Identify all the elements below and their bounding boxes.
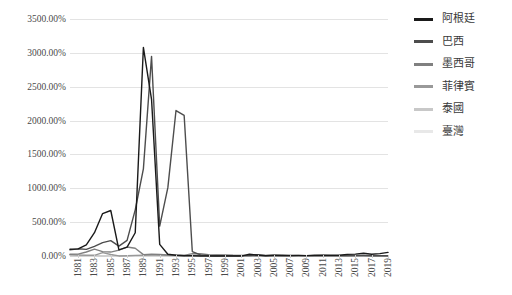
plot-area: [70, 19, 388, 256]
series-line: [70, 47, 388, 256]
series-lines: [70, 19, 388, 256]
x-axis-tick-label: 2011: [318, 258, 328, 277]
x-axis-tick-label: 2005: [269, 258, 279, 277]
legend-item[interactable]: 菲律賓: [414, 76, 510, 99]
x-axis-tick-label: 1985: [106, 258, 116, 277]
x-axis-tick-label: 2015: [350, 258, 360, 277]
x-axis-tick-label: 2017: [367, 258, 377, 277]
y-axis-tick-label: 0.00%: [0, 251, 66, 261]
x-axis-tick-label: 1995: [187, 258, 197, 277]
y-axis-tick-label: 2000.00%: [0, 116, 66, 126]
legend-item-label: 巴西: [442, 36, 464, 48]
x-axis-tick-label: 2009: [301, 258, 311, 277]
x-axis-tick-label: 1989: [138, 258, 148, 277]
legend-item-label: 菲律賓: [442, 81, 475, 93]
x-axis: 1981198319851987198919911993199519971999…: [70, 258, 388, 295]
x-axis-tick-label: 1999: [220, 258, 230, 277]
y-axis-tick-label: 2500.00%: [0, 82, 66, 92]
legend-color-swatch: [414, 108, 433, 111]
x-axis-tick-label: 1981: [73, 258, 83, 277]
legend-item[interactable]: 巴西: [414, 31, 510, 54]
x-axis-tick-label: 1983: [89, 258, 99, 277]
legend-color-swatch: [414, 130, 433, 133]
y-axis-tick-label: 500.00%: [0, 217, 66, 227]
legend-item-label: 阿根廷: [442, 13, 475, 25]
legend-item-label: 臺灣: [442, 126, 464, 138]
legend-color-swatch: [414, 63, 433, 66]
x-axis-tick-label: 2007: [285, 258, 295, 277]
x-axis-tick-label: 1997: [204, 258, 214, 277]
x-axis-tick-label: 2003: [253, 258, 263, 277]
legend-color-swatch: [414, 18, 433, 21]
legend-item[interactable]: 阿根廷: [414, 8, 510, 31]
legend-item-label: 墨西哥: [442, 58, 475, 70]
y-axis: 0.00%500.00%1000.00%1500.00%2000.00%2500…: [0, 0, 66, 256]
y-axis-tick-label: 1000.00%: [0, 183, 66, 193]
x-axis-tick-label: 1991: [155, 258, 165, 277]
legend-item[interactable]: 墨西哥: [414, 53, 510, 76]
legend-color-swatch: [414, 85, 433, 88]
y-axis-tick-label: 3500.00%: [0, 14, 66, 24]
x-axis-tick-label: 2001: [236, 258, 246, 277]
x-axis-tick-label: 1993: [171, 258, 181, 277]
legend-color-swatch: [414, 40, 433, 43]
y-axis-tick-label: 3000.00%: [0, 48, 66, 58]
y-axis-tick-label: 1500.00%: [0, 149, 66, 159]
x-axis-tick-label: 1987: [122, 258, 132, 277]
legend-item-label: 泰國: [442, 103, 464, 115]
legend: 阿根廷巴西墨西哥菲律賓泰國臺灣: [414, 8, 510, 143]
x-axis-tick-label: 2013: [334, 258, 344, 277]
x-axis-tick-label: 2019: [383, 258, 393, 277]
legend-item[interactable]: 臺灣: [414, 121, 510, 144]
series-line: [70, 56, 388, 255]
line-chart: 0.00%500.00%1000.00%1500.00%2000.00%2500…: [0, 0, 512, 295]
legend-item[interactable]: 泰國: [414, 98, 510, 121]
